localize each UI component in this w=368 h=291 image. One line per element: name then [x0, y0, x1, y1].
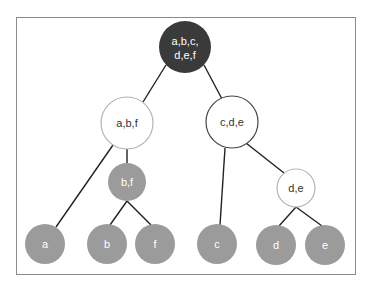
edges: [56, 65, 322, 227]
node-f: f: [135, 224, 175, 264]
node-label: b,f: [121, 176, 134, 188]
node-a: a: [25, 224, 65, 264]
edge-root-abf: [143, 65, 166, 102]
node-label: a: [42, 238, 49, 250]
edge-root-cde: [204, 65, 222, 99]
node-label: a,b,f: [116, 117, 138, 129]
node-label: a,b,c,: [172, 35, 199, 47]
edge-cde-c: [220, 148, 225, 225]
node-label: e: [322, 239, 328, 251]
node-de: d,e: [277, 169, 315, 207]
node-c: c: [197, 224, 237, 264]
edge-abf-a: [56, 145, 113, 227]
edge-cde-de: [246, 143, 284, 173]
edge-bf-b: [110, 201, 127, 225]
node-label: c: [214, 238, 220, 250]
node-abf: a,b,f: [101, 97, 153, 149]
edge-de-e: [296, 207, 322, 226]
node-label: d,e: [288, 182, 303, 194]
node-root: a,b,c, d,e,f: [159, 21, 211, 73]
node-e: e: [305, 225, 345, 265]
node-b: b: [87, 224, 127, 264]
node-bf: b,f: [108, 163, 146, 201]
node-label: b: [104, 238, 110, 250]
node-label: d: [273, 239, 279, 251]
node-label: c,d,e: [220, 116, 244, 128]
tree-diagram: a,b,c, d,e,f a,b,f c,d,e b,f d,e a b f c: [0, 0, 368, 291]
edge-de-d: [279, 207, 296, 226]
node-label: d,e,f: [174, 49, 196, 61]
node-d: d: [256, 225, 296, 265]
node-cde: c,d,e: [206, 96, 258, 148]
edge-bf-f: [127, 201, 151, 225]
